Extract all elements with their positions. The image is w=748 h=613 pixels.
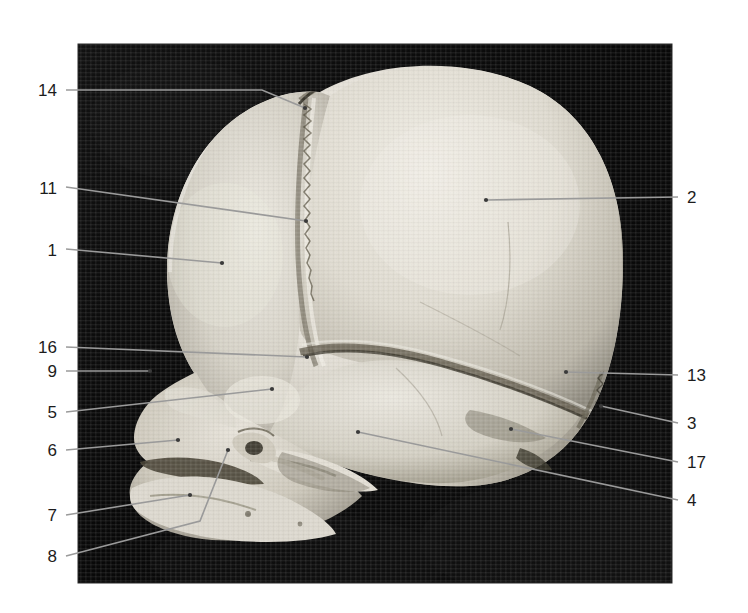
leader-endpoint-7 xyxy=(188,493,192,497)
callout-number-6[interactable]: 6 xyxy=(48,441,57,460)
texture-grain xyxy=(78,44,672,583)
leader-endpoint-8 xyxy=(226,448,230,452)
callout-number-14[interactable]: 14 xyxy=(38,81,57,100)
callout-number-11[interactable]: 11 xyxy=(39,179,57,198)
photo-content xyxy=(78,44,700,605)
figure-canvas: 1411116956782133174 xyxy=(0,0,748,613)
callout-number-16[interactable]: 16 xyxy=(38,338,57,357)
leader-endpoint-5 xyxy=(270,387,274,391)
callout-number-9[interactable]: 9 xyxy=(48,362,57,381)
leader-endpoint-3 xyxy=(599,404,603,408)
leader-endpoint-9 xyxy=(148,369,152,373)
leader-endpoint-1 xyxy=(220,261,224,265)
callout-number-1[interactable]: 1 xyxy=(48,241,57,260)
callout-number-3[interactable]: 3 xyxy=(687,414,696,433)
callout-number-8[interactable]: 8 xyxy=(48,547,57,566)
callout-number-4[interactable]: 4 xyxy=(687,491,696,510)
callout-number-5[interactable]: 5 xyxy=(48,403,57,422)
callout-number-7[interactable]: 7 xyxy=(48,506,57,525)
leader-endpoint-16 xyxy=(305,355,309,359)
callout-number-17[interactable]: 17 xyxy=(687,453,706,472)
leader-endpoint-6 xyxy=(176,438,180,442)
callout-number-2[interactable]: 2 xyxy=(687,188,696,207)
photograph-plate xyxy=(78,44,700,605)
leader-endpoint-14 xyxy=(303,106,307,110)
callout-number-13[interactable]: 13 xyxy=(687,366,706,385)
leader-endpoint-4 xyxy=(356,430,360,434)
leader-endpoint-11 xyxy=(304,219,308,223)
leader-endpoint-2 xyxy=(484,198,488,202)
anatomy-figure: 1411116956782133174 xyxy=(0,0,748,613)
leader-endpoint-17 xyxy=(509,427,513,431)
leader-endpoint-13 xyxy=(564,370,568,374)
